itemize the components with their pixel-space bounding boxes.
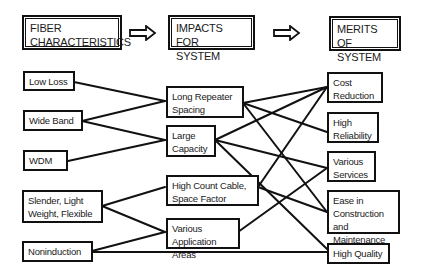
node-cost-reduction: Cost Reduction bbox=[327, 72, 383, 103]
node-wdm: WDM bbox=[23, 150, 68, 171]
node-large-capacity: Large Capacity bbox=[166, 125, 216, 157]
header-fiber-characteristics: FIBER CHARACTERISTICS bbox=[22, 15, 122, 50]
node-high-quality: High Quality bbox=[327, 243, 390, 264]
header-impacts-for-system: IMPACTS FOR SYSTEM bbox=[168, 15, 255, 50]
node-ease-in-construction: Ease in Construction and Maintenance bbox=[327, 190, 400, 234]
node-various-services: Various Services bbox=[327, 151, 376, 182]
header-merits-of-system: MERITS OF SYSTEM bbox=[329, 16, 401, 51]
node-high-reliability: High Reliability bbox=[327, 112, 379, 143]
node-wide-band: Wide Band bbox=[23, 110, 83, 131]
node-slender-light-weight-flexible: Slender, Light Weight, Flexible bbox=[22, 190, 103, 223]
right-arrow-icon bbox=[273, 25, 301, 41]
right-arrow-icon bbox=[129, 25, 157, 41]
node-noninduction: Noninduction bbox=[22, 241, 93, 262]
node-various-application-areas: Various Application Areas bbox=[166, 218, 240, 249]
node-high-count-cable: High Count Cable, Space Factor bbox=[166, 175, 259, 206]
node-low-loss: Low Loss bbox=[23, 71, 75, 91]
node-long-repeater-spacing: Long Repeater Spacing bbox=[166, 86, 244, 118]
